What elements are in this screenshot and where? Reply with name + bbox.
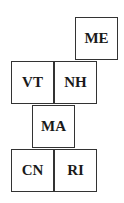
cell-label: CN [22,162,44,179]
state-cell-ma: MA [32,105,75,148]
state-cell-nh: NH [54,61,97,104]
state-cell-cn: CN [11,149,54,192]
cell-label: MA [41,118,66,135]
cell-label: ME [84,30,108,47]
cell-label: NH [64,74,87,91]
state-cell-ri: RI [54,149,97,192]
cell-label: VT [22,74,43,91]
cell-label: RI [67,162,84,179]
state-cell-me: ME [75,17,118,60]
state-cell-vt: VT [11,61,54,104]
